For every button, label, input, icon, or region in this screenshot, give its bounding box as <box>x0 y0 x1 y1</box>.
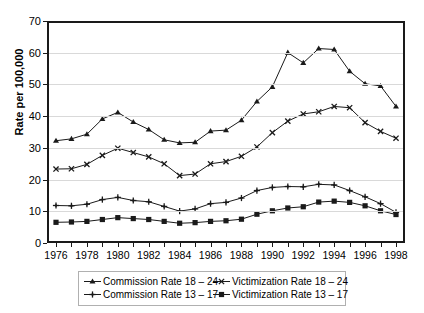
x-tick-mark <box>226 243 227 247</box>
gridline <box>49 180 403 181</box>
chart-figure: Rate per 100,000 010203040506070 1976197… <box>0 0 424 313</box>
y-tick-label: 20 <box>29 175 41 186</box>
x-tick-label: 1988 <box>230 250 253 261</box>
data-point <box>84 201 90 207</box>
data-point <box>146 217 151 222</box>
x-tick-mark <box>396 243 397 247</box>
data-point <box>332 199 337 204</box>
data-point <box>115 194 121 200</box>
data-point <box>316 46 322 51</box>
x-tick-mark <box>303 243 304 247</box>
y-axis: Rate per 100,000 010203040506070 <box>0 0 47 260</box>
x-tick-mark <box>149 243 150 247</box>
chart-legend: Commission Rate 18 – 24 Victimization Ra… <box>78 271 346 306</box>
gridline <box>49 53 403 54</box>
data-point <box>146 127 152 132</box>
x-tick-label: 1996 <box>353 250 376 261</box>
x-tick-label: 1984 <box>168 250 191 261</box>
data-point <box>378 129 383 134</box>
data-point <box>254 187 260 193</box>
data-point <box>285 183 291 189</box>
x-axis: 1976197819801982198419861988199019921994… <box>47 243 405 267</box>
x-tick-label: 1978 <box>75 250 98 261</box>
x-tick-mark <box>211 243 212 247</box>
data-point <box>393 136 398 141</box>
data-point <box>393 212 398 217</box>
data-point <box>362 120 367 125</box>
square-marker-icon <box>212 289 231 300</box>
x-tick-label: 1982 <box>137 250 160 261</box>
x-tick-mark <box>180 243 181 247</box>
data-point <box>162 161 167 166</box>
x-tick-mark <box>71 243 72 247</box>
legend-item-commission-18-24: Commission Rate 18 – 24 <box>83 275 212 288</box>
data-point <box>347 200 352 205</box>
y-tick-label: 70 <box>29 16 41 27</box>
x-tick-mark <box>257 243 258 247</box>
data-point <box>162 219 167 224</box>
data-point <box>131 216 136 221</box>
x-tick-mark <box>381 243 382 247</box>
x-tick-mark <box>102 243 103 247</box>
y-axis-title: Rate per 100,000 <box>13 17 25 167</box>
x-tick-label: 1990 <box>261 250 284 261</box>
legend-label: Victimization Rate 13 – 17 <box>232 288 348 301</box>
data-point <box>177 221 182 226</box>
legend-item-commission-13-17: Commission Rate 13 – 17 <box>83 288 212 301</box>
x-tick-mark <box>272 243 273 247</box>
data-point <box>254 212 259 217</box>
data-point <box>146 199 152 205</box>
x-tick-label: 1998 <box>384 250 407 261</box>
gridline <box>49 84 403 85</box>
data-point <box>130 197 136 203</box>
data-point <box>362 194 368 200</box>
y-tick-label: 30 <box>29 143 41 154</box>
x-marker-icon <box>212 276 231 287</box>
x-tick-mark <box>56 243 57 247</box>
data-point <box>285 119 290 124</box>
data-point <box>331 182 337 188</box>
plot-area <box>47 21 405 243</box>
data-point <box>223 199 229 205</box>
data-point <box>161 203 167 209</box>
gridline <box>49 211 403 212</box>
data-point <box>285 205 290 210</box>
data-point <box>238 195 244 201</box>
data-point <box>207 201 213 207</box>
data-point <box>53 220 58 225</box>
x-tick-mark <box>87 243 88 247</box>
x-tick-mark <box>334 243 335 247</box>
legend-row: Commission Rate 13 – 17 Victimization Ra… <box>83 288 341 301</box>
data-point <box>316 181 322 187</box>
data-point <box>239 217 244 222</box>
legend-label: Victimization Rate 18 – 24 <box>232 275 348 288</box>
y-tick-label: 0 <box>35 238 41 249</box>
x-tick-label: 1976 <box>44 250 67 261</box>
data-point <box>377 201 383 207</box>
data-point <box>192 220 197 225</box>
x-tick-label: 1986 <box>199 250 222 261</box>
data-point <box>300 184 306 190</box>
data-point <box>362 203 367 208</box>
data-point <box>84 219 89 224</box>
plus-marker-icon <box>83 289 102 300</box>
data-point <box>100 153 105 158</box>
y-tick-label: 10 <box>29 206 41 217</box>
data-point <box>301 204 306 209</box>
x-tick-label: 1980 <box>106 250 129 261</box>
data-point <box>269 184 275 190</box>
data-point <box>270 130 275 135</box>
x-tick-mark <box>133 243 134 247</box>
legend-item-victimization-18-24: Victimization Rate 18 – 24 <box>212 275 341 288</box>
data-point <box>223 127 229 132</box>
data-point <box>100 217 105 222</box>
x-tick-label: 1992 <box>292 250 315 261</box>
x-tick-label: 1994 <box>322 250 345 261</box>
x-tick-mark <box>365 243 366 247</box>
legend-row: Commission Rate 18 – 24 Victimization Ra… <box>83 275 341 288</box>
data-point <box>316 199 321 204</box>
y-tick-label: 50 <box>29 79 41 90</box>
gridline <box>49 148 403 149</box>
data-point <box>69 219 74 224</box>
series-layer <box>49 23 403 241</box>
